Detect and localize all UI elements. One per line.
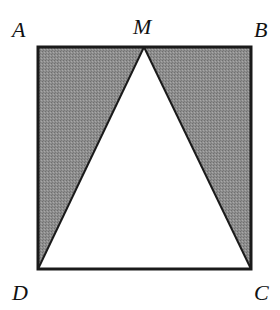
label-a: A bbox=[10, 17, 26, 42]
label-m: M bbox=[132, 14, 153, 39]
label-b: B bbox=[254, 17, 267, 42]
geometry-diagram: A M B D C bbox=[0, 0, 280, 310]
label-d: D bbox=[11, 280, 28, 305]
label-c: C bbox=[254, 280, 269, 305]
